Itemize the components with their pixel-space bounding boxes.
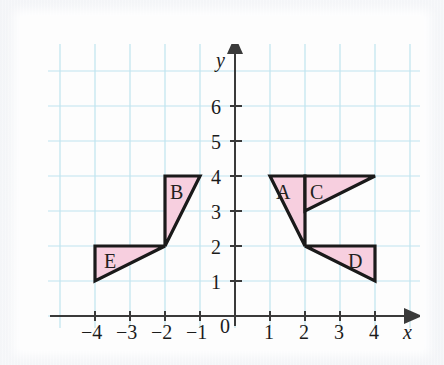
x-tick-label-1: 1 <box>264 322 274 342</box>
y-axis-label: y <box>216 50 225 70</box>
plot-area: A B C D E −4 −3 −2 −1 0 1 2 3 4 1 2 3 4 … <box>48 44 420 328</box>
y-tick-label-3: 3 <box>211 202 221 222</box>
x-tick-label-3: 3 <box>334 322 344 342</box>
y-tick-label-5: 5 <box>211 132 221 152</box>
region-label-D: D <box>348 251 362 271</box>
origin-label: 0 <box>220 316 230 336</box>
page-card: A B C D E −4 −3 −2 −1 0 1 2 3 4 1 2 3 4 … <box>20 16 424 350</box>
x-tick-label--3: −3 <box>116 322 137 342</box>
x-tick-label-4: 4 <box>369 322 379 342</box>
x-axis-label: x <box>403 322 412 342</box>
figure-graphics <box>48 44 420 328</box>
region-label-C: C <box>310 182 323 202</box>
y-tick-label-1: 1 <box>211 272 221 292</box>
region-label-B: B <box>170 182 183 202</box>
x-tick-label--2: −2 <box>151 322 172 342</box>
y-tick-label-4: 4 <box>211 167 221 187</box>
y-tick-label-2: 2 <box>211 237 221 257</box>
y-tick-label-6: 6 <box>211 97 221 117</box>
region-D-polygon <box>305 246 375 281</box>
figure-screenshot: A B C D E −4 −3 −2 −1 0 1 2 3 4 1 2 3 4 … <box>0 0 444 365</box>
x-tick-label--4: −4 <box>81 322 102 342</box>
x-tick-label-2: 2 <box>299 322 309 342</box>
region-label-E: E <box>104 251 116 271</box>
x-tick-label--1: −1 <box>186 322 207 342</box>
region-label-A: A <box>276 182 290 202</box>
